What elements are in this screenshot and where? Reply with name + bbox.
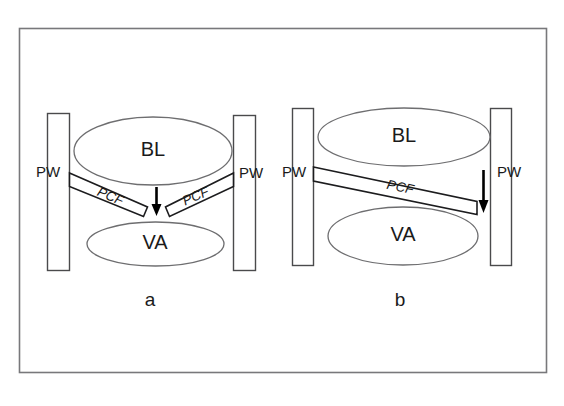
panel-a-left-wall [48,114,70,271]
panel-b-left-wall-label: PW [282,163,307,180]
panel-a-caption: a [145,289,156,310]
panel-b-caption: b [395,289,406,310]
panel-a-bl-label: BL [141,138,165,160]
panel-a-left-wall-label: PW [36,163,61,180]
panel-a-va-label: VA [142,231,168,253]
panel-b-bl-label: BL [392,124,416,146]
panel-a-right-wall-label: PW [239,164,264,181]
panel-b-va-label: VA [390,223,416,245]
panel-b-left-wall [293,109,314,266]
panel-a-right-wall [234,116,256,271]
panel-b-right-wall-label: PW [497,163,522,180]
figure-canvas: BL VA PW PW PCF PCF a BL VA PW PW PCF b [0,0,564,406]
panel-b-right-wall [491,109,512,266]
figure-root: BL VA PW PW PCF PCF a BL VA PW PW PCF b [0,0,564,406]
